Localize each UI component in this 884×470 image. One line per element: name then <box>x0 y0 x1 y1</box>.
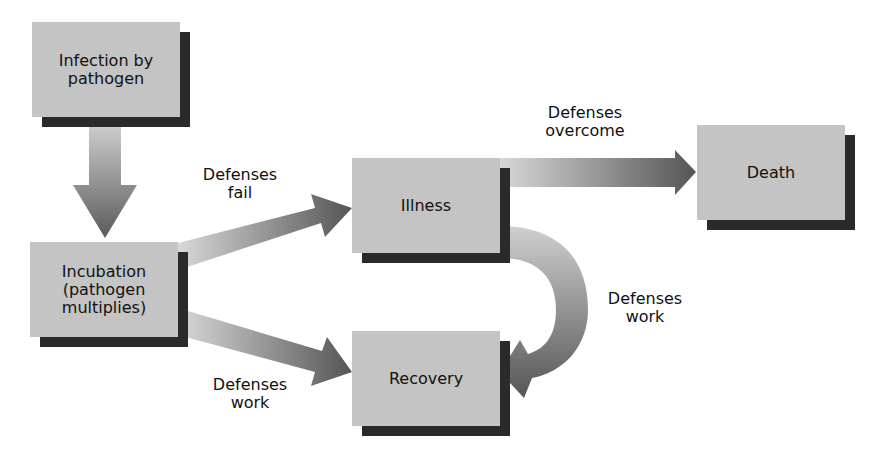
node-death: Death <box>697 125 845 220</box>
edge-label-defenses-overcome: Defenses overcome <box>530 104 640 140</box>
node-recovery: Recovery <box>352 331 500 426</box>
node-incubation: Incubation (pathogen multiplies) <box>30 242 178 337</box>
node-label: Recovery <box>352 331 500 426</box>
edge-label-defenses-work-lower: Defenses work <box>205 376 295 412</box>
node-illness: Illness <box>352 158 500 253</box>
arrow-infection-to-incubation <box>73 117 137 238</box>
node-label: Infection by pathogen <box>32 22 180 117</box>
edge-label-defenses-work-right: Defenses work <box>600 290 690 326</box>
arrow-illness-to-recovery-curved <box>500 226 588 398</box>
node-infection: Infection by pathogen <box>32 22 180 117</box>
node-label: Incubation (pathogen multiplies) <box>30 242 178 337</box>
node-label: Death <box>697 125 845 220</box>
edge-label-defenses-fail: Defenses fail <box>195 166 285 202</box>
arrow-incubation-to-illness <box>178 194 352 270</box>
node-label: Illness <box>352 158 500 253</box>
arrow-illness-to-death <box>500 150 696 195</box>
